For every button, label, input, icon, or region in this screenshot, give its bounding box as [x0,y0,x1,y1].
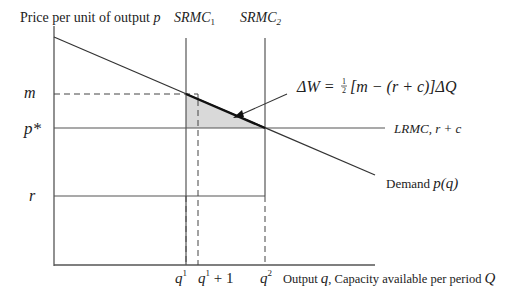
welfare-diagram: Price per unit of output p SRMC1 SRMC2 m… [0,0,526,291]
y-axis-title: Price per unit of output p [20,10,160,25]
q1-label: q1 [175,268,187,286]
q1-plus-1-label: q1 + 1 [198,268,233,286]
demand-label: Demand p(q) [386,175,458,192]
welfare-formula-half-den: 2 [342,86,346,95]
welfare-formula: ΔW = [296,78,335,95]
q2-label: q2 [260,268,272,286]
formula-pointer-arrow [240,94,287,115]
r-label: r [29,187,36,204]
m-label: m [24,84,36,101]
welfare-formula-half-num: 1 [342,77,346,86]
srmc2-label: SRMC2 [240,10,282,27]
x-axis-title: Output q, Capacity available per period … [283,270,496,286]
srmc1-label: SRMC1 [174,10,215,27]
welfare-formula-rhs: [m − (r + c)]ΔQ [350,78,457,96]
p-star-label: p* [23,119,42,138]
lrmc-label: LRMC, r + c [393,121,462,136]
